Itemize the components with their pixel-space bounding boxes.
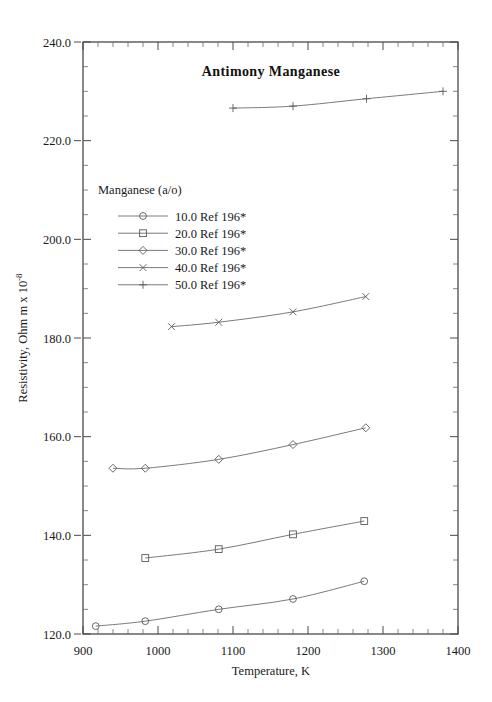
y-tick-label: 140.0 bbox=[43, 529, 71, 543]
x-tick-label: 1300 bbox=[371, 644, 396, 658]
y-axis-title: Resistivity, Ohm m x 10-8 bbox=[14, 273, 30, 403]
chart-background bbox=[0, 0, 492, 702]
legend-item-label: 20.0 Ref 196* bbox=[175, 227, 246, 241]
chart-figure: 90010001100120013001400 120.0140.0160.01… bbox=[0, 0, 492, 702]
y-tick-label: 180.0 bbox=[43, 332, 71, 346]
y-tick-label: 200.0 bbox=[43, 233, 71, 247]
legend-item-label: 30.0 Ref 196* bbox=[175, 244, 246, 258]
resistivity-vs-temperature-chart: 90010001100120013001400 120.0140.0160.01… bbox=[0, 0, 492, 702]
x-tick-label: 900 bbox=[74, 644, 93, 658]
x-tick-label: 1100 bbox=[221, 644, 246, 658]
y-tick-label: 240.0 bbox=[43, 36, 71, 50]
legend-item-label: 50.0 Ref 196* bbox=[175, 278, 246, 292]
x-axis-title: Temperature, K bbox=[232, 664, 310, 678]
y-tick-label: 220.0 bbox=[43, 134, 71, 148]
y-tick-label: 160.0 bbox=[43, 430, 71, 444]
legend-title: Manganese (a/o) bbox=[98, 183, 182, 197]
x-tick-label: 1000 bbox=[146, 644, 171, 658]
legend-item-label: 40.0 Ref 196* bbox=[175, 261, 246, 275]
x-tick-label: 1400 bbox=[446, 644, 471, 658]
chart-title: Antimony Manganese bbox=[202, 64, 340, 79]
legend-item-label: 10.0 Ref 196* bbox=[175, 210, 246, 224]
y-axis-title-group: Resistivity, Ohm m x 10-8 bbox=[14, 273, 30, 403]
x-tick-label: 1200 bbox=[296, 644, 321, 658]
y-tick-label: 120.0 bbox=[43, 628, 71, 642]
